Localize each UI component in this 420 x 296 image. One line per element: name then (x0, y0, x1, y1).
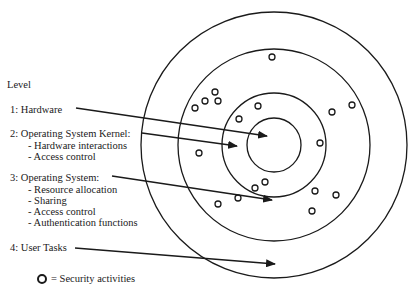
levels-heading: Level (7, 79, 31, 91)
security-activity-dot (317, 140, 323, 146)
security-activity-dot (252, 185, 258, 191)
level-2-item: - Hardware interactions (28, 140, 127, 152)
security-activity-dot (212, 89, 218, 95)
level-rings (141, 12, 407, 278)
legend-text: = Security activities (51, 273, 135, 284)
security-activity-dot (202, 98, 208, 104)
security-activity-dot (215, 201, 221, 207)
ring-level-2 (222, 93, 326, 197)
level-3-item: - Sharing (28, 195, 67, 207)
ring-level-4 (141, 12, 407, 278)
security-activity-dot (329, 109, 335, 115)
level-3-label: 3: Operating System: (10, 172, 99, 184)
security-activity-dot (236, 116, 242, 122)
security-activity-dot (312, 188, 318, 194)
security-activity-dot (196, 150, 202, 156)
arrow-level-3 (112, 176, 272, 200)
level-3-item: - Access control (28, 206, 96, 218)
level-3-item: - Authentication functions (28, 217, 138, 229)
security-activity-circle-icon (37, 274, 47, 284)
security-activity-dot (235, 195, 241, 201)
security-activity-dot (269, 54, 275, 60)
level-2-item: - Access control (28, 151, 96, 163)
legend: = Security activities (37, 273, 135, 284)
security-activity-dot (349, 102, 355, 108)
security-activity-dot (333, 192, 339, 198)
level-3-item: - Resource allocation (28, 184, 117, 196)
security-activity-dot (255, 103, 261, 109)
security-activity-dot (262, 179, 268, 185)
level-4-label: 4: User Tasks (10, 242, 67, 254)
security-activity-dot (309, 208, 315, 214)
security-activity-dot (215, 98, 221, 104)
security-activity-dot (192, 105, 198, 111)
level-1-label: 1: Hardware (10, 104, 62, 116)
arrow-level-4 (75, 248, 275, 264)
ring-level-3 (178, 49, 370, 241)
level-2-label: 2: Operating System Kernel: (10, 128, 130, 140)
security-activity-dots (192, 54, 355, 214)
ring-level-1 (247, 118, 301, 172)
